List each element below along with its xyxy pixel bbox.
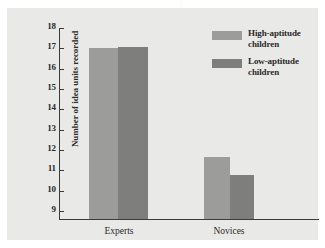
y-tick-11: 11 [25, 170, 65, 171]
x-axis-label-novices: Novices [201, 226, 257, 236]
legend-item-high-aptitude: High-aptitude children [212, 30, 324, 52]
y-tick-10: 10 [25, 191, 65, 192]
y-tick-label-17: 17 [30, 41, 56, 51]
y-tick-label-12: 12 [30, 143, 56, 153]
y-axis-title: Number of idea units recorded [70, 9, 80, 169]
y-tick-14: 14 [25, 109, 65, 110]
y-tick-label-15: 15 [30, 82, 56, 92]
y-tick-9: 9 [25, 211, 65, 212]
legend-item-low-aptitude: Low-aptitude children [212, 58, 324, 80]
x-axis-line [59, 219, 319, 220]
y-tick-mark-13 [59, 130, 64, 131]
y-tick-17: 17 [25, 48, 65, 49]
bar-novices-high-aptitude [204, 157, 230, 219]
legend-swatch-low-aptitude [212, 59, 242, 68]
y-tick-mark-9 [59, 211, 64, 212]
y-tick-mark-14 [59, 109, 64, 110]
bar-novices-low-aptitude [230, 175, 254, 219]
chart-panel: Number of idea units recorded 18 17 16 1… [7, 8, 318, 240]
bar-experts-high-aptitude [89, 48, 118, 219]
y-tick-12: 12 [25, 150, 65, 151]
y-tick-13: 13 [25, 130, 65, 131]
y-tick-label-13: 13 [30, 123, 56, 133]
x-axis-label-experts: Experts [88, 226, 150, 236]
y-tick-mark-10 [59, 191, 64, 192]
y-tick-label-11: 11 [30, 163, 56, 173]
y-tick-label-16: 16 [30, 62, 56, 72]
bar-chart-figure: Number of idea units recorded 18 17 16 1… [0, 0, 325, 248]
legend-label-low-aptitude: Low-aptitude children [248, 56, 322, 77]
y-tick-mark-16 [59, 69, 64, 70]
legend-label-high-aptitude: High-aptitude children [248, 28, 322, 49]
y-tick-18: 18 [25, 28, 65, 29]
bar-experts-low-aptitude [118, 47, 148, 219]
y-tick-mark-12 [59, 150, 64, 151]
y-tick-mark-17 [59, 48, 64, 49]
y-tick-15: 15 [25, 89, 65, 90]
y-tick-label-9: 9 [30, 204, 56, 214]
y-tick-mark-18 [59, 28, 64, 29]
y-tick-mark-11 [59, 170, 64, 171]
y-tick-mark-15 [59, 89, 64, 90]
legend-swatch-high-aptitude [212, 31, 242, 40]
y-tick-label-10: 10 [30, 184, 56, 194]
y-tick-label-14: 14 [30, 102, 56, 112]
y-tick-label-18: 18 [30, 21, 56, 31]
y-tick-16: 16 [25, 69, 65, 70]
legend: High-aptitude children Low-aptitude chil… [212, 30, 324, 86]
